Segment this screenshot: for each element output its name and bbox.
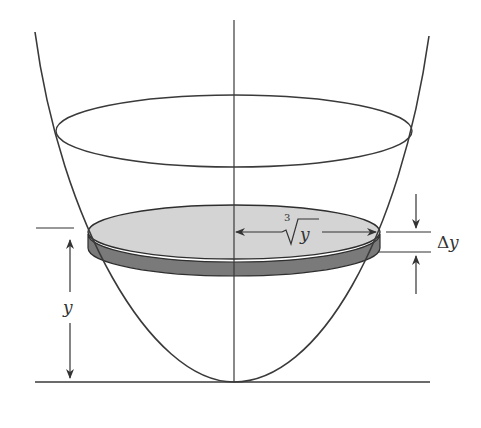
radicand: y (299, 224, 310, 244)
delta-y-label: Δ y (437, 232, 459, 252)
svg-text:y: y (448, 232, 459, 252)
root-index: 3 (284, 212, 290, 223)
paraboloid-diagram: 3 y Δ y y (0, 0, 481, 428)
svg-text:Δ: Δ (437, 232, 449, 252)
height-label: y (62, 297, 73, 317)
